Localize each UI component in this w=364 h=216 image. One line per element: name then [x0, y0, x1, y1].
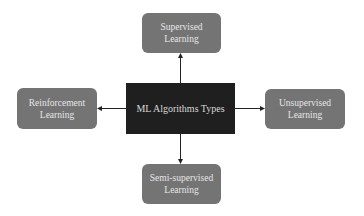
center-label: ML Algorithms Types — [136, 103, 224, 115]
node-semi-supervised-learning: Semi-supervised Learning — [142, 164, 221, 204]
node-label-line2: Learning — [29, 109, 85, 121]
node-label-line1: Reinforcement — [29, 97, 85, 109]
node-ml-algorithms-types: ML Algorithms Types — [126, 83, 235, 134]
node-supervised-learning: Supervised Learning — [142, 13, 221, 53]
node-reinforcement-learning: Reinforcement Learning — [17, 88, 97, 129]
node-label-line1: Supervised — [160, 21, 202, 33]
node-label-line1: Semi-supervised — [150, 172, 213, 184]
node-label-line2: Learning — [160, 33, 202, 45]
node-label-line2: Learning — [150, 184, 213, 196]
node-label-line1: Unsupervised — [279, 97, 331, 109]
node-unsupervised-learning: Unsupervised Learning — [265, 89, 345, 129]
node-label-line2: Learning — [279, 109, 331, 121]
